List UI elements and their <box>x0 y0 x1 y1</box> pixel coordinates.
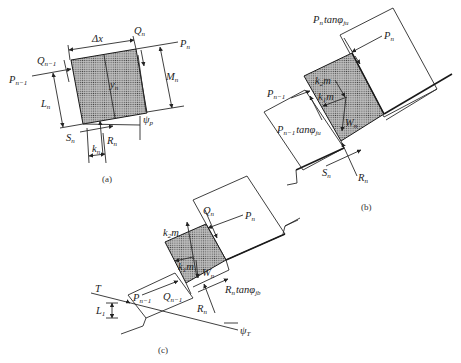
sn-arrow <box>80 126 113 132</box>
pn-label: Pn <box>179 38 190 51</box>
rn-arrow-b <box>342 143 357 176</box>
ground-c-low-step <box>143 318 146 326</box>
ln-ext <box>60 124 83 128</box>
qn1-label: Qn−1 <box>37 55 56 68</box>
pn1-arrow <box>32 69 71 76</box>
panel-b: Pntanφju Pn k2m k1m Pn−1 Pn−1tanφju Wn S… <box>264 8 452 212</box>
pn-tan-label-b: Pntanφju <box>312 14 349 27</box>
rn-label: Rn <box>106 135 117 148</box>
caption-a: (a) <box>102 174 112 184</box>
base-horizontal <box>83 124 140 125</box>
rn-label-c: Rn <box>196 303 207 316</box>
pn1-label: Pn−1 <box>8 74 27 87</box>
rn-arrow <box>100 121 103 155</box>
pn-line <box>136 42 178 49</box>
ground-c-top-2 <box>285 218 300 226</box>
panel-a: Δx Qn Pn Qn−1 Pn−1 Ln yn Mn ψp Sn Rn kn … <box>8 25 190 184</box>
ln-dimension <box>53 73 63 127</box>
psi-p-label: ψp <box>143 114 154 127</box>
panel-c: Qn Pn k2m k1m Wn Rntanφjb T Pn−1 Qn−1 L1… <box>91 176 300 355</box>
dx-ext-right <box>133 36 136 49</box>
kn-label: kn <box>92 143 101 156</box>
psi-t-label-c: ψT <box>240 325 252 338</box>
ground-c-low <box>121 326 143 334</box>
sn-label-b: Sn <box>322 167 331 180</box>
kn-ext-left <box>87 128 89 163</box>
qn-label: Qn <box>134 25 146 38</box>
ground-b-step <box>296 170 297 183</box>
wn-label-c: Wn <box>202 267 215 280</box>
kn-ext-right <box>103 133 106 163</box>
ln-label: Ln <box>40 98 51 111</box>
qn1-arrow <box>64 60 69 82</box>
mn-ext <box>147 106 184 112</box>
dx-ext-left <box>68 45 70 60</box>
ground-b <box>287 183 297 185</box>
slice-a <box>71 49 147 124</box>
rn-tan-arrow-c <box>198 279 228 292</box>
slice-force-diagram: Δx Qn Pn Qn−1 Pn−1 Ln yn Mn ψp Sn Rn kn … <box>0 0 461 363</box>
qn-arrow <box>141 50 144 66</box>
rn-tan-label-c: Rntanφjb <box>224 284 261 297</box>
l1-label-c: L1 <box>95 305 105 318</box>
slice-c-side <box>226 260 229 270</box>
caption-c: (c) <box>158 345 168 355</box>
caption-b: (b) <box>361 202 372 212</box>
rn-label-b: Rn <box>357 172 368 185</box>
pn1-label-b: Pn−1 <box>266 88 285 101</box>
sn-label: Sn <box>66 132 75 145</box>
dx-label: Δx <box>91 33 103 44</box>
t-label-c: T <box>95 283 102 294</box>
